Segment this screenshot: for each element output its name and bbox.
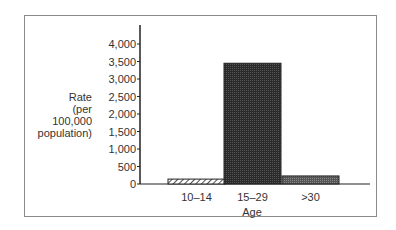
x-tick-label: 10–14 <box>181 191 212 203</box>
bar-1 <box>168 179 225 184</box>
y-tick-label: 1,000 <box>108 143 136 155</box>
bar-3 <box>282 176 339 184</box>
y-tick-label: 2,500 <box>108 91 136 103</box>
y-tick-label: 3,500 <box>108 56 136 68</box>
x-tick-label: >30 <box>301 191 320 203</box>
y-tick-label: 0 <box>130 178 136 190</box>
y-tick-label: 1,500 <box>108 126 136 138</box>
x-tick-label: 15–29 <box>237 191 268 203</box>
bars <box>168 63 339 184</box>
bar-2 <box>224 63 281 184</box>
bar-chart: 05001,0001,5002,0002,5003,0003,5004,0001… <box>0 0 396 230</box>
y-tick-label: 4,000 <box>108 38 136 50</box>
y-tick-label: 2,000 <box>108 108 136 120</box>
x-axis-label: Age <box>242 206 262 218</box>
y-tick-label: 500 <box>118 161 136 173</box>
y-tick-label: 3,000 <box>108 73 136 85</box>
